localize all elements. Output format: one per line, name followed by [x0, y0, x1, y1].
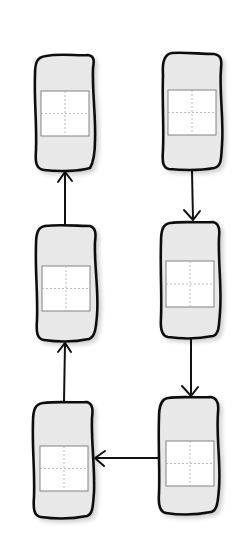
cycle-diagram [0, 0, 247, 547]
inner-box [166, 441, 214, 486]
edge-n3-n4 [95, 451, 158, 466]
edge-n5-n6 [58, 172, 72, 225]
node-middle-left [36, 225, 98, 341]
node-bottom-left [33, 402, 94, 518]
edge-n1-n2 [184, 171, 200, 220]
inner-box [166, 261, 214, 307]
node-top-left [35, 55, 95, 171]
inner-box [41, 91, 89, 136]
inner-box [40, 446, 88, 491]
inner-box [42, 266, 90, 311]
edge-n2-n3 [182, 339, 198, 396]
edge-n4-n5 [58, 343, 71, 401]
node-bottom-right [159, 397, 220, 514]
node-top-right [163, 53, 223, 170]
inner-box [168, 90, 216, 135]
node-middle-right [161, 222, 221, 338]
